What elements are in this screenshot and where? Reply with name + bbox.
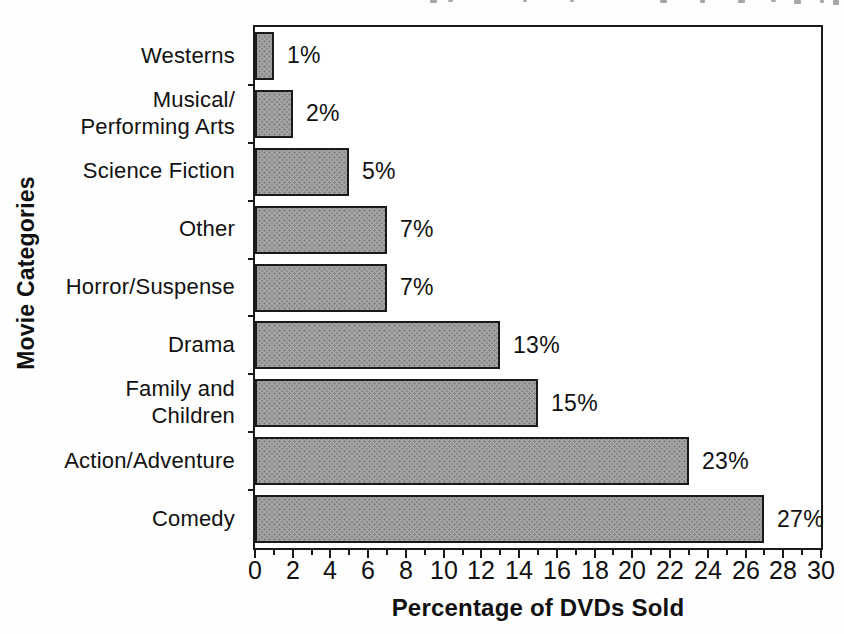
x-minor-tick [537,550,539,555]
chart-figure: Movie Categories WesternsMusical/ Perfor… [0,0,844,634]
x-minor-tick [801,550,803,555]
bar-value-label: 1% [287,32,321,80]
category-label: Family and Children [0,374,243,432]
bar-6 [255,379,538,427]
category-boundary-tick [248,431,254,433]
cropped-text-speck [523,0,527,2]
x-minor-tick [348,550,350,555]
x-minor-tick [612,550,614,555]
cropped-text-speck [700,0,705,3]
bar-value-label: 5% [362,148,396,196]
bar-3 [255,206,387,254]
cropped-text-speck [794,0,801,4]
cropped-text-speck [820,0,824,3]
cropped-text-speck [448,0,453,2]
category-boundary-tick [248,200,254,202]
cropped-text-speck [738,0,745,3]
x-minor-tick [499,550,501,555]
x-axis-tick-labels: 024681012141618202224262830 [255,556,825,584]
category-label: Westerns [0,27,243,85]
x-minor-tick [386,550,388,555]
category-boundary-tick [248,315,254,317]
x-minor-tick [763,550,765,555]
bar-value-label: 2% [306,90,340,138]
bar-2 [255,148,349,196]
bar-1 [255,90,293,138]
bar-8 [255,495,764,543]
cropped-text-speck [833,0,839,5]
bar-7 [255,437,689,485]
category-boundary-tick [248,489,254,491]
bar-value-label: 7% [400,206,434,254]
x-minor-tick [726,550,728,555]
x-axis-title: Percentage of DVDs Sold [253,594,823,622]
x-minor-tick [311,550,313,555]
bar-value-label: 15% [551,379,598,427]
x-minor-tick [575,550,577,555]
x-minor-tick [688,550,690,555]
category-boundary-tick [248,258,254,260]
cropped-text-speck [570,0,574,2]
category-label: Other [0,201,243,259]
x-minor-tick [650,550,652,555]
cropped-text-speck [771,0,776,2]
bar-0 [255,32,274,80]
category-label: Action/Adventure [0,432,243,490]
bar-5 [255,321,500,369]
x-minor-tick [462,550,464,555]
bar-value-label: 13% [513,321,560,369]
category-label: Science Fiction [0,143,243,201]
category-boundary-tick [248,373,254,375]
x-minor-tick [273,550,275,555]
category-label: Comedy [0,490,243,548]
bar-value-label: 27% [777,495,824,543]
bar-4 [255,264,387,312]
category-label: Drama [0,316,243,374]
x-tick-label: 30 [799,556,843,585]
cropped-text-speck [660,0,667,3]
x-minor-tick [424,550,426,555]
category-boundary-tick [248,84,254,86]
cropped-text-speck [430,0,437,3]
category-boundary-tick [248,142,254,144]
category-label: Musical/ Performing Arts [0,85,243,143]
category-label: Horror/Suspense [0,259,243,317]
bar-value-label: 23% [702,437,749,485]
bar-value-label: 7% [400,264,434,312]
plot-area: 1%2%5%7%7%13%15%23%27% [253,25,823,550]
